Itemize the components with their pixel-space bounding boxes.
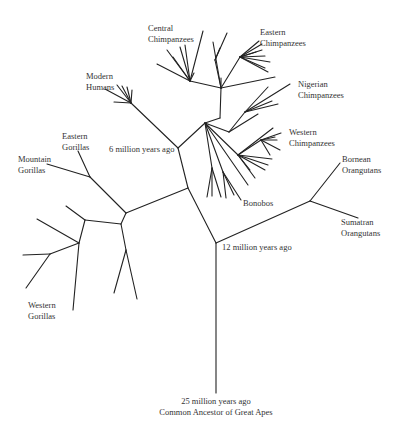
african-ape-trunk	[178, 148, 216, 243]
orangutan-clade	[216, 163, 358, 243]
label-eastern-chimpanzees: Eastern Chimpanzees	[260, 27, 306, 48]
label-sumatran-orangutans: Sumatran Orangutans	[341, 217, 380, 238]
label-bonobos: Bonobos	[243, 198, 273, 209]
label-western-gorillas: Western Gorillas	[28, 300, 56, 321]
human-clade	[105, 85, 178, 148]
label-modern-humans: Modern Humans	[86, 71, 114, 92]
label-12-million-years: 12 million years ago	[222, 242, 292, 253]
label-6-million-years: 6 million years ago	[109, 144, 174, 155]
label-nigerian-chimpanzees: Nigerian Chimpanzees	[298, 79, 344, 100]
chimp-bonobo-clade	[157, 31, 290, 200]
label-root: 25 million years ago Common Ancestor of …	[116, 396, 316, 417]
label-central-chimpanzees: Central Chimpanzees	[148, 23, 194, 44]
phylogenetic-tree	[0, 0, 397, 432]
label-western-chimpanzees: Western Chimpanzees	[289, 127, 335, 148]
label-bornean-orangutans: Bornean Orangutans	[342, 154, 381, 175]
label-mountain-gorillas: Mountain Gorillas	[18, 154, 51, 175]
label-eastern-gorillas: Eastern Gorillas	[62, 131, 89, 152]
